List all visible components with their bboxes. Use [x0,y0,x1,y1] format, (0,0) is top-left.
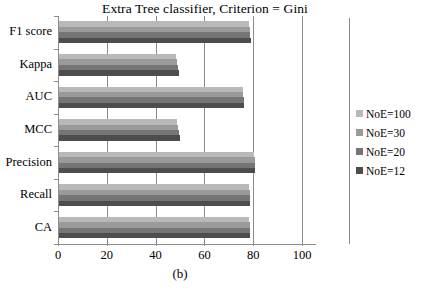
x-axis-tick [156,241,157,246]
bar [59,201,250,206]
y-axis-tick [54,81,59,82]
y-axis-tick [54,16,59,17]
bar [59,168,255,173]
y-axis-label-kappa: Kappa [19,57,52,72]
legend-divider [349,18,350,244]
x-axis-label-20: 20 [87,248,127,263]
bar [59,38,251,43]
legend-item-noe-30[interactable]: NoE=30 [356,123,422,142]
x-axis-label-40: 40 [136,248,176,263]
legend-swatch-icon [356,148,363,155]
figure-caption: (b) [0,266,360,282]
bar-group [59,179,302,212]
legend-swatch-icon [356,110,363,117]
x-axis-label-0: 0 [38,248,78,263]
bar-group [59,49,302,82]
y-axis-label-precision: Precision [5,155,52,170]
x-axis-tick [107,241,108,246]
bar [59,233,250,238]
y-axis-label-recall: Recall [20,187,52,202]
chart-legend: NoE=100NoE=30NoE=20NoE=12 [356,104,422,180]
y-axis-label-ca: CA [35,220,52,235]
y-axis-tick [54,211,59,212]
legend-label: NoE=20 [366,146,405,158]
legend-swatch-icon [356,167,363,174]
bar [59,103,244,108]
x-axis-tick [253,241,254,246]
y-axis-label-f1-score: F1 score [9,24,52,39]
y-axis-tick [54,49,59,50]
bar-group [59,81,302,114]
legend-item-noe-100[interactable]: NoE=100 [356,104,422,123]
plot-area [58,16,302,244]
legend-label: NoE=100 [366,108,411,120]
x-axis-tick [204,241,205,246]
y-axis-label-auc: AUC [26,89,52,104]
legend-label: NoE=30 [366,127,405,139]
legend-swatch-icon [356,129,363,136]
bar-group [59,146,302,179]
legend-label: NoE=12 [366,165,405,177]
chart-figure: Extra Tree classifier, Criterion = Gini … [0,0,423,291]
bar-group [59,16,302,49]
y-axis-tick [54,114,59,115]
gridline-x-100 [302,16,303,244]
x-axis-tick [302,241,303,246]
x-axis-tick [58,241,59,246]
x-axis-line [58,244,316,245]
y-axis-tick [54,146,59,147]
bar-group [59,211,302,244]
y-axis-tick [54,179,59,180]
x-axis-label-100: 100 [282,248,322,263]
bar-group [59,114,302,147]
x-axis-label-80: 80 [233,248,273,263]
x-axis-label-60: 60 [184,248,224,263]
y-axis-label-mcc: MCC [24,122,52,137]
legend-item-noe-12[interactable]: NoE=12 [356,161,422,180]
bar [59,70,179,75]
bar [59,135,180,140]
chart-title: Extra Tree classifier, Criterion = Gini [60,1,350,17]
legend-item-noe-20[interactable]: NoE=20 [356,142,422,161]
